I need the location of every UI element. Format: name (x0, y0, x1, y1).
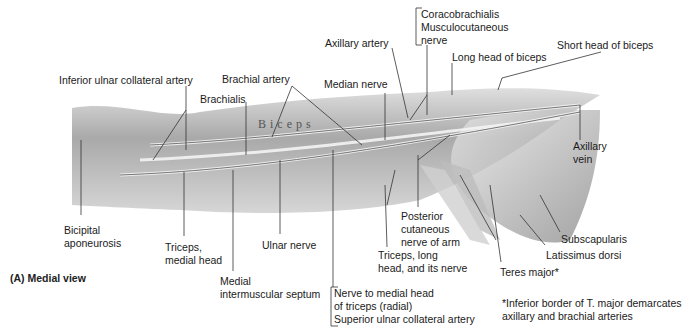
label-long-head-biceps: Long head of biceps (452, 51, 547, 64)
label-bicipital-aponeurosis: Bicipital aponeurosis (64, 224, 121, 250)
label-ulnar-nerve: Ulnar nerve (262, 239, 316, 252)
label-median-nerve: Median nerve (324, 78, 388, 91)
label-medial-intermuscular-septum: Medial intermuscular septum (220, 275, 320, 301)
label-short-head-biceps: Short head of biceps (557, 39, 653, 52)
label-posterior-cutaneous-nerve: Posterior cutaneous nerve of arm (401, 210, 460, 249)
label-subscapularis: Subscapularis (561, 233, 627, 246)
label-axillary-vein: Axillary vein (573, 140, 607, 166)
svg-text:Biceps: Biceps (258, 117, 315, 131)
label-axillary-artery: Axillary artery (325, 37, 389, 50)
label-latissimus-dorsi: Latissimus dorsi (546, 249, 621, 262)
footnote: *Inferior border of T. major demarcates … (502, 297, 682, 323)
label-nerve-group: Nerve to medial head of triceps (radial)… (334, 287, 475, 326)
label-coracobrachialis-group: Coracobrachialis Musculocutaneous nerve (421, 8, 509, 47)
label-brachialis: Brachialis (200, 93, 246, 106)
label-brachial-artery: Brachial artery (222, 73, 290, 86)
label-teres-major: Teres major* (500, 266, 559, 279)
label-triceps-medial-head: Triceps, medial head (165, 241, 222, 267)
label-triceps-long-head: Triceps, long head, and its nerve (378, 249, 467, 275)
figure-title: (A) Medial view (10, 272, 86, 284)
label-inferior-ulnar-collateral-artery: Inferior ulnar collateral artery (59, 74, 193, 87)
